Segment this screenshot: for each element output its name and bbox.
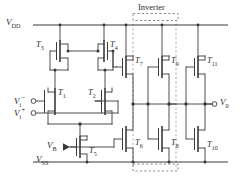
vdd-label: VDD [6,18,20,29]
transistor-T7 [112,25,134,104]
device-label-T9: T9 [171,56,179,67]
tail-node [78,122,81,136]
transistor-T8 [148,104,171,164]
transistor-T3 [50,25,98,70]
output-label: V0 [220,98,229,109]
device-label-T10: T10 [207,140,218,151]
device-label-T3: T3 [36,40,44,51]
circuit-diagram: VDD VSS Inverter Vi− Vi+ VB V0 T3 T4 T1 … [0,0,244,182]
device-label-T5: T5 [89,146,97,157]
transistor-T9 [146,25,169,106]
device-label-T11: T11 [207,56,218,67]
device-label-T8: T8 [171,138,179,149]
device-label-T6: T6 [135,138,143,149]
transistor-T11 [184,25,205,106]
device-label-T4: T4 [110,40,118,51]
bias-label: VB [47,141,57,152]
transistor-T10 [186,104,207,164]
vss-label: VSS [36,155,48,166]
device-label-T2: T2 [88,88,96,99]
transistor-T1 [31,88,80,124]
inverter-section-label: Inverter [138,3,165,12]
input-plus-label: Vi+ [14,107,25,120]
device-label-T7: T7 [135,56,143,67]
mirror-drain-legs [54,69,107,89]
device-label-T1: T1 [58,88,66,99]
transistor-T5 [63,136,89,164]
